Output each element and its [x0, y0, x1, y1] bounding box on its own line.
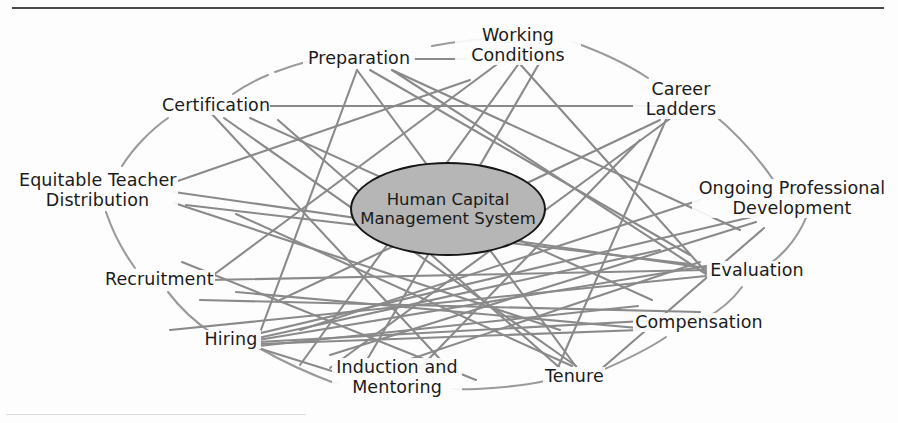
- node-label-ongoing-professional-development[interactable]: Ongoing Professional Development: [692, 179, 892, 218]
- center-node-label: Human Capital Management System: [360, 190, 535, 228]
- node-label-preparation[interactable]: Preparation: [303, 49, 415, 68]
- node-label-career-ladders[interactable]: Career Ladders: [633, 80, 729, 119]
- node-label-induction-and-mentoring[interactable]: Induction and Mentoring: [332, 358, 462, 397]
- node-label-hiring[interactable]: Hiring: [201, 330, 261, 349]
- node-label-recruitment[interactable]: Recruitment: [103, 270, 215, 289]
- figure-canvas: Human Capital Management System Preparat…: [0, 0, 898, 423]
- node-label-equitable-teacher-distribution[interactable]: Equitable Teacher Distribution: [17, 171, 178, 210]
- node-label-compensation[interactable]: Compensation: [633, 313, 765, 332]
- node-label-working-conditions[interactable]: Working Conditions: [455, 26, 581, 65]
- node-label-tenure[interactable]: Tenure: [543, 367, 605, 386]
- node-label-evaluation[interactable]: Evaluation: [707, 261, 807, 280]
- center-node: Human Capital Management System: [350, 162, 546, 256]
- node-label-certification[interactable]: Certification: [160, 96, 270, 115]
